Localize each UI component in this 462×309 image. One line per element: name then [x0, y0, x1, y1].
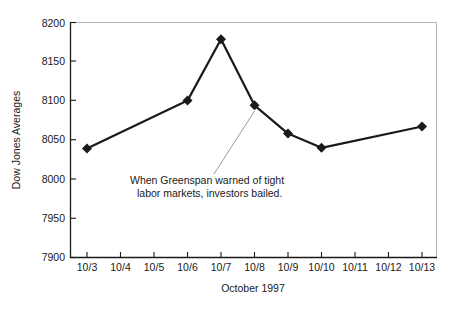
x-tick-label-10-12: 10/12 [375, 261, 401, 273]
x-axis-title: October 1997 [221, 282, 285, 294]
annotation-line-2: labor markets, investors bailed. [137, 187, 282, 199]
x-tick-label-10-9: 10/9 [278, 261, 299, 273]
data-point-10-6 [183, 96, 193, 106]
data-point-10-7 [216, 34, 226, 44]
x-tick-label-10-8: 10/8 [244, 261, 265, 273]
x-tick-label-10-5: 10/5 [144, 261, 165, 273]
annotation-line-1: When Greenspan warned of tight [130, 174, 284, 186]
y-axis-title: Dow Jones Averages [10, 91, 22, 189]
x-tick-label-10-3: 10/3 [77, 261, 98, 273]
y-tick-label-8200: 8200 [42, 17, 66, 29]
chart-figure: 7900 7950 8000 8050 8100 8150 8200 10/3 … [0, 0, 462, 309]
x-tick-label-10-4: 10/4 [110, 261, 131, 273]
data-point-10-13 [417, 122, 427, 132]
y-tick-label-8050: 8050 [42, 133, 66, 145]
data-series-line [87, 39, 422, 148]
x-tick-label-10-11: 10/11 [342, 261, 368, 273]
x-tick-label-10-13: 10/13 [409, 261, 435, 273]
x-tick-label-10-6: 10/6 [177, 261, 198, 273]
y-tick-label-8000: 8000 [42, 173, 66, 185]
data-point-10-3 [82, 144, 92, 154]
x-tick-label-10-10: 10/10 [308, 261, 334, 273]
data-point-10-10 [317, 143, 327, 153]
y-tick-label-8100: 8100 [42, 94, 66, 106]
y-tick-label-8150: 8150 [42, 55, 66, 67]
annotation-leader-line [214, 111, 255, 174]
y-tick-label-7950: 7950 [42, 212, 66, 224]
line-chart-canvas: 7900 7950 8000 8050 8100 8150 8200 10/3 … [0, 0, 462, 309]
y-tick-label-7900: 7900 [42, 251, 66, 263]
x-tick-label-10-7: 10/7 [211, 261, 232, 273]
